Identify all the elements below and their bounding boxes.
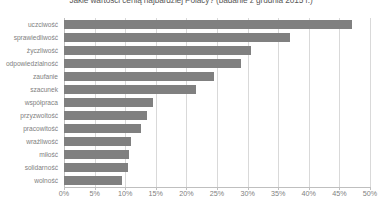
x-tick-label: 35% [271,189,285,198]
x-tick-label: 25% [210,189,224,198]
bar [64,163,128,171]
bar-row [64,20,370,28]
x-tick-label: 50% [363,189,377,198]
category-axis-labels: uczciwośćsprawiedliwośćżyczliwośćodpowie… [0,18,61,187]
bar [64,85,196,93]
bar-row [64,46,370,54]
category-label: sprawiedliwość [14,34,58,42]
bar [64,33,290,41]
chart-title: Jakie wartości cenią najbardziej Polacy?… [0,0,382,5]
bar [64,59,241,67]
bar-row [64,163,370,171]
bar [64,46,251,54]
x-tick-label: 30% [240,189,254,198]
bar [64,111,147,119]
bar [64,124,141,132]
plot-area [64,18,370,187]
bar-row [64,137,370,145]
bar-row [64,176,370,184]
x-axis-tick-labels: 0%5%10%15%20%25%30%35%40%45%50% [64,189,370,203]
bar-row [64,59,370,67]
bar-row [64,111,370,119]
bar [64,150,129,158]
bar-row [64,33,370,41]
x-tick-label: 5% [89,189,99,198]
category-label: wolność [34,177,58,185]
x-tick-label: 10% [118,189,132,198]
bar-row [64,98,370,106]
x-tick-label: 20% [179,189,193,198]
bar-chart: Jakie wartości cenią najbardziej Polacy?… [0,0,382,205]
bar [64,98,153,106]
bar [64,20,352,28]
bar-row [64,124,370,132]
category-label: współpraca [25,99,58,107]
bar-row [64,85,370,93]
bars-layer [64,18,370,187]
bar-row [64,72,370,80]
category-label: odpowiedzialność [6,60,58,68]
category-label: szacunek [30,86,58,94]
category-label: wrażliwość [26,138,58,146]
category-label: pracowitość [23,125,58,133]
category-label: zaufanie [33,73,58,81]
bar [64,137,131,145]
gridline [370,18,371,187]
x-tick-label: 15% [149,189,163,198]
category-label: życzliwość [27,47,58,55]
x-tick-label: 45% [332,189,346,198]
x-tick-label: 0% [59,189,69,198]
category-label: miłość [39,151,58,159]
category-label: przyzwoitość [20,112,58,120]
category-label: solidarność [25,164,58,172]
x-tick-label: 40% [302,189,316,198]
bar [64,72,214,80]
bar-row [64,150,370,158]
bar [64,176,122,184]
category-label: uczciwość [28,21,58,29]
